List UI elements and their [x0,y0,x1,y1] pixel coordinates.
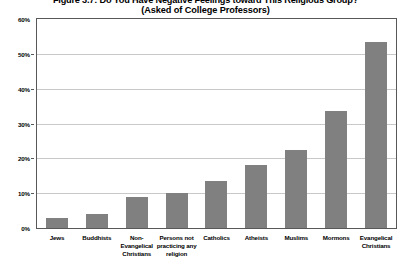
bar-slot [197,19,237,228]
chart-title-block: Figure 3.7: Do You Have Negative Feeling… [0,0,411,16]
y-axis: 60%50%40%30%20%10%0% [0,18,34,229]
y-axis-tick-label: 0% [21,225,30,232]
y-axis-tick-mark [31,124,34,125]
bar [205,181,227,228]
bar-series [37,19,396,228]
x-axis-tick-label: Non-Evangelical Christians [117,234,157,258]
x-axis-tick-label: Mormons [316,234,356,242]
y-axis-tick-label: 20% [18,155,30,162]
x-axis-tick-label: Evangelical Christians [356,234,396,250]
x-axis-tick-label: Catholics [197,234,237,242]
y-axis-tick-mark [31,89,34,90]
bar [245,165,267,228]
bar-slot [276,19,316,228]
y-axis-tick-mark [31,193,34,194]
x-axis: JewsBuddhistsNon-Evangelical ChristiansP… [37,234,396,279]
bar-slot [316,19,356,228]
bar-slot [157,19,197,228]
bar-slot [117,19,157,228]
bar [46,218,68,228]
y-axis-tick-label: 10% [18,190,30,197]
bar [166,193,188,228]
bar [126,197,148,228]
y-axis-tick-label: 60% [18,16,30,23]
x-axis-tick-label: Buddhists [77,234,117,242]
bar [86,214,108,228]
y-axis-tick-label: 30% [18,120,30,127]
bar [285,150,307,228]
x-axis-tick-label: Persons not practicing any religion [157,234,197,258]
y-axis-tick-label: 50% [18,50,30,57]
y-axis-tick-label: 40% [18,85,30,92]
bar-slot [37,19,77,228]
x-axis-tick-label: Jews [37,234,77,242]
x-axis-tick-label: Muslims [276,234,316,242]
bar-slot [356,19,396,228]
bar [325,111,347,228]
y-axis-tick-mark [31,54,34,55]
y-axis-tick-mark [31,158,34,159]
bar-slot [236,19,276,228]
bar-slot [77,19,117,228]
bar [365,42,387,228]
chart-subtitle: (Asked of College Professors) [0,5,411,16]
x-axis-tick-label: Atheists [236,234,276,242]
